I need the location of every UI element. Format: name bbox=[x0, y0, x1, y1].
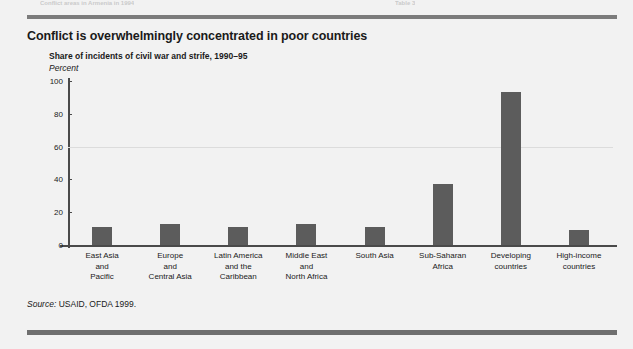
y-axis-tick-label: 100 bbox=[36, 77, 63, 86]
x-axis-category-label: Latin America and the Caribbean bbox=[204, 251, 272, 283]
bar bbox=[92, 227, 112, 245]
y-axis-tick-label: 0 bbox=[36, 241, 63, 250]
figure-title: Conflict is overwhelmingly concentrated … bbox=[27, 29, 367, 43]
y-axis-unit-label: Percent bbox=[49, 63, 78, 73]
x-axis-category-label: South Asia bbox=[341, 251, 409, 262]
source-value: USAID, OFDA 1999. bbox=[56, 299, 136, 309]
x-axis-category-label: High-income countries bbox=[545, 251, 613, 272]
bar bbox=[433, 184, 453, 245]
y-axis-tick-label: 60 bbox=[36, 142, 63, 151]
cropped-header-left-text: Conflict areas in Armenia in 1994 bbox=[40, 0, 134, 7]
bar bbox=[228, 227, 248, 245]
figure-subtitle: Share of incidents of civil war and stri… bbox=[49, 51, 247, 61]
plot-area bbox=[68, 81, 613, 245]
source-note: Source: USAID, OFDA 1999. bbox=[27, 299, 136, 309]
x-axis-category-label: East Asia and Pacific bbox=[68, 251, 136, 283]
y-axis-tick-label: 40 bbox=[36, 175, 63, 184]
x-axis-category-label: Middle East and North Africa bbox=[272, 251, 340, 283]
figure-page: Conflict areas in Armenia in 1994 Table … bbox=[0, 0, 633, 349]
source-keyword: Source: bbox=[27, 299, 56, 309]
bar bbox=[160, 224, 180, 245]
x-axis-category-label: Developing countries bbox=[477, 251, 545, 272]
x-axis-category-label: Sub-Saharan Africa bbox=[409, 251, 477, 272]
x-axis-category-label: Europe and Central Asia bbox=[136, 251, 204, 283]
y-axis-tick-label: 20 bbox=[36, 208, 63, 217]
divider-rule-bottom bbox=[27, 330, 617, 335]
bar bbox=[501, 92, 521, 245]
bar bbox=[569, 230, 589, 245]
bar bbox=[296, 224, 316, 245]
bar bbox=[365, 227, 385, 245]
x-axis-line bbox=[60, 245, 617, 247]
y-axis-tick-label: 80 bbox=[36, 109, 63, 118]
cropped-header-right-text: Table 3 bbox=[395, 0, 415, 7]
divider-rule-top bbox=[27, 15, 617, 19]
